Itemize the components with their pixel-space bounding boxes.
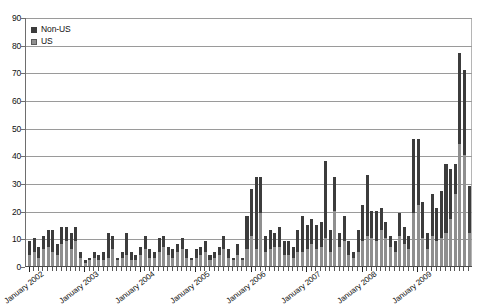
legend-label-us: US xyxy=(41,37,53,46)
bar-segment-us xyxy=(324,238,327,266)
bar-segment-us xyxy=(167,255,170,266)
bar-segment-us xyxy=(458,144,461,266)
bar-segment-non-us xyxy=(245,216,248,249)
bar-segment-us xyxy=(296,252,299,266)
bar-segment-non-us xyxy=(144,236,147,250)
bar-segment-us xyxy=(398,236,401,266)
bar-segment-us xyxy=(449,219,452,266)
bar-segment-non-us xyxy=(412,139,415,214)
bar-segment-us xyxy=(361,241,364,266)
bar-segment-us xyxy=(111,249,114,266)
bar-segment-us xyxy=(366,236,369,266)
legend-swatch-us-icon xyxy=(31,39,37,45)
bar-segment-us xyxy=(468,233,471,266)
bar-segment-us xyxy=(74,241,77,266)
bar-segment-us xyxy=(278,247,281,266)
bar-segment-non-us xyxy=(283,241,286,255)
bar-segment-non-us xyxy=(403,227,406,244)
bar-segment-non-us xyxy=(111,236,114,250)
bar-segment-us xyxy=(195,258,198,266)
bar-segment-non-us xyxy=(148,249,151,257)
bar-segment-non-us xyxy=(171,249,174,257)
bar-segment-us xyxy=(107,258,110,266)
bar-segment-non-us xyxy=(190,258,193,261)
legend-item-non-us: Non-US xyxy=(31,24,71,35)
bar-segment-non-us xyxy=(195,249,198,257)
bar-segment-non-us xyxy=(42,236,45,250)
bar-segment-us xyxy=(394,252,397,266)
bar-segment-us xyxy=(236,255,239,266)
bar-segment-us xyxy=(347,255,350,266)
bar-segment-us xyxy=(158,252,161,266)
bar-segment-us xyxy=(380,230,383,266)
bar-segment-us xyxy=(329,252,332,266)
bar-segment-non-us xyxy=(213,252,216,258)
bar-segment-non-us xyxy=(417,139,420,205)
bar-segment-us xyxy=(250,236,253,266)
bar-segment-us xyxy=(264,252,267,266)
bar-segment-non-us xyxy=(259,177,262,213)
bar-segment-non-us xyxy=(444,164,447,233)
bar-segment-us xyxy=(431,236,434,266)
bar-segment-us xyxy=(421,238,424,266)
bar-segment-us xyxy=(403,244,406,266)
bar-segment-us xyxy=(51,252,54,266)
legend-item-us: US xyxy=(31,36,71,47)
bar-segment-us xyxy=(232,260,235,266)
cropped-title-strip xyxy=(0,0,478,10)
bar-segment-non-us xyxy=(315,225,318,250)
bar-segment-us xyxy=(259,213,262,266)
bar-segment-us xyxy=(407,249,410,266)
bar-segment-us xyxy=(176,252,179,266)
bar-segment-us xyxy=(199,255,202,266)
bar-segment-non-us xyxy=(380,208,383,230)
bar-segment-us xyxy=(88,260,91,266)
bar-segment-us xyxy=(121,258,124,266)
bar-segment-us xyxy=(204,252,207,266)
bar-segment-non-us xyxy=(347,241,350,255)
y-axis-tick-label: 50 xyxy=(12,125,21,134)
bar-segment-non-us xyxy=(394,241,397,252)
bar-segment-us xyxy=(283,255,286,266)
bar-segment-non-us xyxy=(366,175,369,236)
bar-segment-us xyxy=(116,260,119,266)
bar-segment-us xyxy=(315,249,318,266)
bar-segment-non-us xyxy=(241,258,244,261)
stacked-bar-chart: 9080706050403020100 January 2002January … xyxy=(0,0,478,307)
bar-segment-non-us xyxy=(389,236,392,247)
x-axis-tick-label: January 2009 xyxy=(391,270,433,305)
bar-segment-non-us xyxy=(269,230,272,249)
x-axis-tick-label: January 2004 xyxy=(114,270,156,305)
bar-segment-us xyxy=(389,247,392,266)
bar-segment-non-us xyxy=(468,186,471,233)
bar-segment-us xyxy=(79,258,82,266)
bar-segment-us xyxy=(102,260,105,266)
x-axis-tick-label: January 2003 xyxy=(58,270,100,305)
bar-segment-non-us xyxy=(287,241,290,255)
bar-segment-non-us xyxy=(208,255,211,261)
bar-segment-us xyxy=(440,238,443,266)
y-axis-tick-label: 80 xyxy=(12,42,21,51)
bar-segment-us xyxy=(245,249,248,266)
bar-segment-us xyxy=(269,249,272,266)
bar-segment-non-us xyxy=(361,205,364,241)
bar-segment-non-us xyxy=(458,53,461,144)
bar-segment-non-us xyxy=(222,236,225,250)
bar-segment-us xyxy=(343,241,346,266)
bar-segment-non-us xyxy=(255,177,258,249)
bar-segment-us xyxy=(153,258,156,266)
bar-segment-non-us xyxy=(74,227,77,241)
bar-segment-non-us xyxy=(47,230,50,247)
legend-label-non-us: Non-US xyxy=(41,25,71,34)
bar-segment-non-us xyxy=(88,258,91,261)
y-axis-tick-label: 20 xyxy=(12,208,21,217)
bar-segment-us xyxy=(148,258,151,266)
bar-segment-us xyxy=(56,255,59,266)
bar-segment-us xyxy=(42,249,45,266)
bar-segment-non-us xyxy=(93,252,96,258)
x-axis-tick-label: January 2008 xyxy=(336,270,378,305)
bar-segment-us xyxy=(93,258,96,266)
x-axis-labels: January 2002January 2003January 2004Janu… xyxy=(0,270,478,307)
bar-segment-us xyxy=(130,260,133,266)
bar-segment-non-us xyxy=(158,238,161,252)
